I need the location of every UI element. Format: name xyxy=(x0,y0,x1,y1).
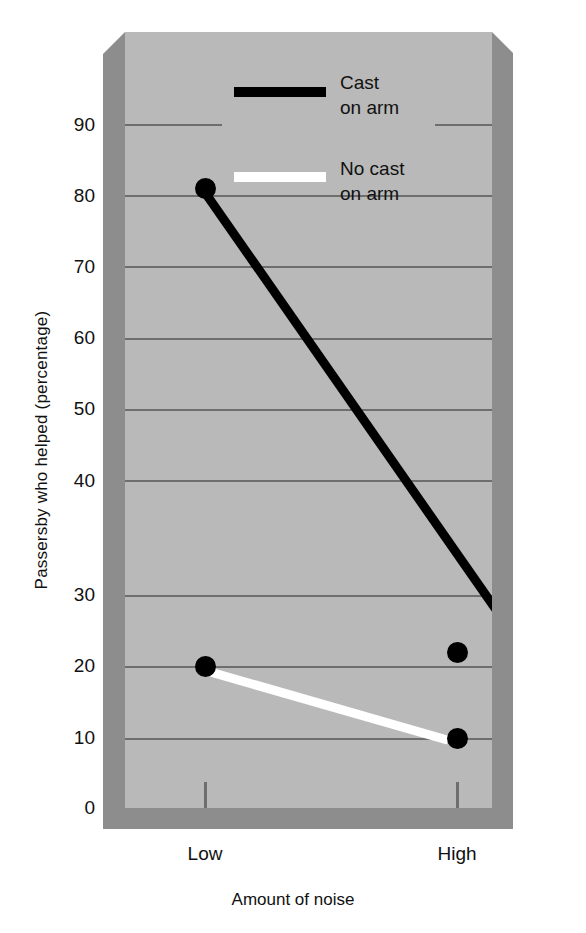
y-tick-label-0: 0 xyxy=(41,797,95,819)
data-point-cast-low xyxy=(195,178,216,199)
x-tick-mark-high xyxy=(456,782,459,808)
frame-bevel-bottom xyxy=(103,808,513,829)
chart-figure: Passersby who helped (percentage) 90 80 … xyxy=(0,0,586,933)
gridline-20 xyxy=(125,666,492,668)
y-axis-tick-labels: 90 80 70 60 50 40 30 20 10 0 xyxy=(37,0,95,933)
data-point-nocast-low xyxy=(195,656,216,677)
legend-swatch-no-cast-on-arm xyxy=(234,172,326,182)
x-tick-mark-low xyxy=(204,782,207,808)
y-tick-label-20: 20 xyxy=(41,655,95,677)
frame-bevel-left xyxy=(103,32,125,818)
gridline-80 xyxy=(125,195,492,197)
data-point-nocast-high xyxy=(447,728,468,749)
data-point-cast-high xyxy=(447,642,468,663)
x-tick-label-low: Low xyxy=(188,843,223,865)
legend-label-no-cast-on-arm: No cast on arm xyxy=(340,156,404,206)
series-line-cast-on-arm xyxy=(201,190,492,661)
gridline-70 xyxy=(125,266,492,268)
y-tick-label-40: 40 xyxy=(41,470,95,492)
frame-bevel-right xyxy=(492,32,513,818)
y-tick-label-10: 10 xyxy=(41,727,95,749)
y-tick-label-90: 90 xyxy=(41,114,95,136)
legend-label-cast-on-arm: Cast on arm xyxy=(340,70,399,120)
plot-area: Cast on arm No cast on arm xyxy=(125,32,492,808)
legend-item-no-cast-on-arm: No cast on arm xyxy=(234,130,474,188)
y-tick-label-30: 30 xyxy=(41,584,95,606)
y-tick-label-70: 70 xyxy=(41,256,95,278)
gridline-30 xyxy=(125,595,492,597)
chart-legend: Cast on arm No cast on arm xyxy=(234,72,474,188)
y-tick-label-50: 50 xyxy=(41,398,95,420)
gridline-90-left xyxy=(125,124,222,126)
x-axis-title: Amount of noise xyxy=(0,890,586,910)
legend-item-cast-on-arm: Cast on arm xyxy=(234,72,474,130)
frame-bevel-corner-top-right xyxy=(492,32,513,53)
y-tick-label-80: 80 xyxy=(41,185,95,207)
x-tick-label-high: High xyxy=(437,843,476,865)
gridline-50 xyxy=(125,409,492,411)
frame-bevel-corner-top-left xyxy=(103,32,125,54)
y-tick-label-60: 60 xyxy=(41,327,95,349)
series-line-no-cast-on-arm xyxy=(204,666,450,744)
gridline-40 xyxy=(125,480,492,482)
legend-swatch-cast-on-arm xyxy=(234,87,326,97)
